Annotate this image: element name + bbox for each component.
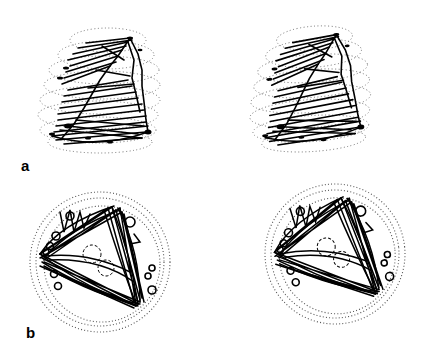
panel-b-right-stereo-image [0, 0, 432, 356]
panel-label-a: a [21, 158, 29, 173]
figure: a b [0, 0, 432, 356]
panel-label-b: b [26, 325, 35, 340]
